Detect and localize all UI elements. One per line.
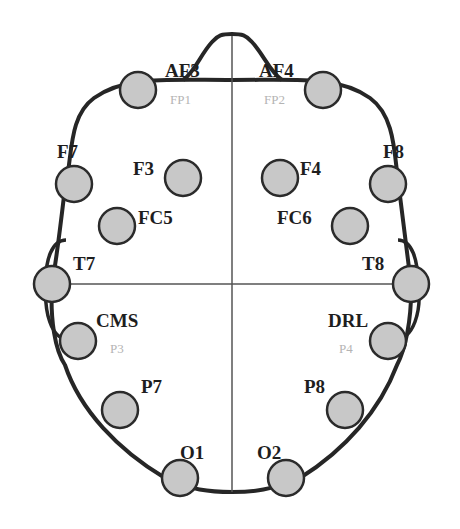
electrode-label: T8: [362, 253, 384, 274]
electrode-circle-icon: [327, 392, 363, 428]
electrode-label: AF4: [259, 60, 294, 81]
electrode-circle-icon: [120, 72, 156, 108]
electrode-label: F8: [383, 141, 404, 162]
electrode-drl: DRLP4: [328, 310, 406, 359]
electrode-circle-icon: [393, 266, 429, 302]
electrode-af3: AF3FP1: [120, 60, 200, 108]
electrode-sublabel: FP1: [170, 92, 191, 107]
eeg-head-diagram: AF3FP1AF4FP2F7F8F3F4FC5FC6T7T8CMSP3DRLP4…: [0, 0, 460, 529]
electrode-circle-icon: [370, 166, 406, 202]
electrode-sublabel: P4: [339, 341, 353, 356]
electrode-label: P7: [141, 376, 163, 397]
electrode-circle-icon: [99, 208, 135, 244]
electrode-sublabel: P3: [110, 341, 124, 356]
electrode-circle-icon: [305, 72, 341, 108]
electrode-label: FC5: [138, 207, 173, 228]
electrode-f4: F4: [262, 158, 322, 196]
electrode-circle-icon: [370, 323, 406, 359]
electrode-circle-icon: [102, 392, 138, 428]
electrode-label: P8: [304, 376, 325, 397]
electrode-circle-icon: [34, 266, 70, 302]
electrode-f7: F7: [56, 141, 92, 202]
electrode-cms: CMSP3: [60, 310, 138, 359]
electrode-label: FC6: [277, 207, 312, 228]
electrode-sublabel: FP2: [264, 92, 285, 107]
electrode-t7: T7: [34, 253, 96, 302]
electrode-t8: T8: [362, 253, 429, 302]
electrode-label: O2: [257, 442, 281, 463]
electrode-f8: F8: [370, 141, 406, 202]
electrode-circle-icon: [268, 460, 304, 496]
electrode-label: F7: [57, 141, 79, 162]
electrode-label: CMS: [96, 310, 138, 331]
electrode-circle-icon: [56, 166, 92, 202]
electrode-fc6: FC6: [277, 207, 368, 244]
electrode-label: AF3: [165, 60, 200, 81]
electrode-circle-icon: [262, 160, 298, 196]
electrode-label: F4: [300, 158, 322, 179]
electrode-p7: P7: [102, 376, 163, 428]
electrode-label: O1: [180, 442, 204, 463]
electrode-label: T7: [73, 253, 96, 274]
electrode-fc5: FC5: [99, 207, 173, 244]
electrode-circle-icon: [165, 160, 201, 196]
electrode-circle-icon: [60, 323, 96, 359]
electrode-p8: P8: [304, 376, 363, 428]
electrode-label: F3: [133, 158, 154, 179]
electrode-label: DRL: [328, 310, 368, 331]
electrode-f3: F3: [133, 158, 201, 196]
electrode-circle-icon: [162, 460, 198, 496]
electrode-circle-icon: [332, 208, 368, 244]
electrode-af4: AF4FP2: [259, 60, 341, 108]
